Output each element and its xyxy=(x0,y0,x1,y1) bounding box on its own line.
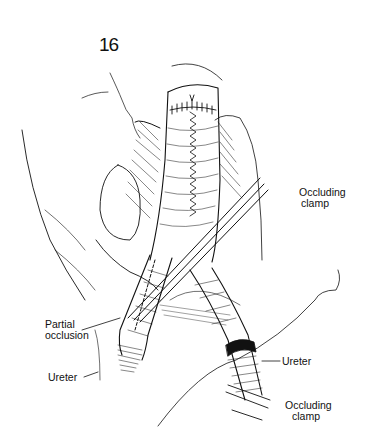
hand-outline xyxy=(22,130,85,300)
label-occluding-clamp-top: Occluding clamp xyxy=(299,187,346,209)
label-line: occlusion xyxy=(45,330,89,341)
ureter-right xyxy=(190,270,245,400)
label-occluding-clamp-bottom: Occluding clamp xyxy=(285,400,332,422)
figure-number: 16 xyxy=(99,34,118,56)
label-partial-occlusion: Partial occlusion xyxy=(45,319,89,341)
label-line: Ureter xyxy=(48,372,77,383)
label-line: clamp xyxy=(299,198,346,209)
label-line: clamp xyxy=(285,411,332,422)
vessel-left-wall xyxy=(150,92,168,260)
suture-line xyxy=(172,95,212,114)
surgical-illustration: 16 Occluding clamp Partial occlusion Ure… xyxy=(0,0,384,447)
ureter-left xyxy=(119,255,150,355)
tissue-outline xyxy=(172,64,222,80)
tissue-shading xyxy=(126,122,242,218)
clamp-top xyxy=(128,178,268,322)
stitching xyxy=(190,112,196,216)
label-ureter-left: Ureter xyxy=(48,372,77,383)
label-line: Ureter xyxy=(282,356,311,367)
vessel-rings xyxy=(160,126,218,227)
leader-ureter-left xyxy=(84,372,98,377)
label-ureter-right: Ureter xyxy=(282,356,311,367)
